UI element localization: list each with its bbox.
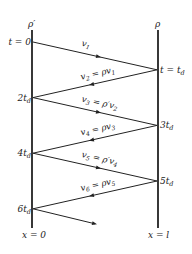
lattice-diagram: ρ′ ρ x = 0 x = l t = 0t = td2td3td4td5td… bbox=[0, 0, 192, 254]
right-reflection-label: ρ bbox=[154, 19, 161, 29]
time-label: 4td bbox=[16, 148, 31, 160]
right-position-label: x = l bbox=[148, 230, 169, 240]
wave-label: v1 bbox=[81, 38, 92, 51]
time-label: t = td bbox=[160, 65, 185, 77]
time-label: 3td bbox=[160, 120, 174, 132]
left-position-label: x = 0 bbox=[22, 230, 46, 240]
arrowhead-icon bbox=[92, 221, 98, 226]
time-label: 6td bbox=[17, 204, 31, 216]
time-label: t = 0 bbox=[8, 37, 31, 47]
left-reflection-label: ρ′ bbox=[27, 19, 35, 29]
time-label: 5td bbox=[160, 176, 174, 188]
time-label: 2td bbox=[16, 93, 31, 105]
wave-ray bbox=[33, 42, 157, 70]
outgoing-ray bbox=[33, 209, 95, 224]
